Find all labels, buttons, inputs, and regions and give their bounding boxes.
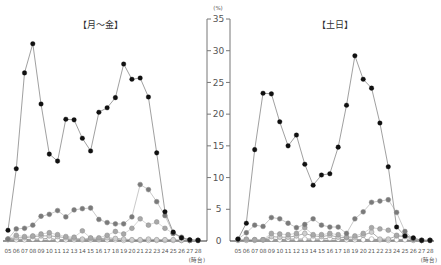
series-black-point — [319, 173, 324, 178]
series-black-point — [138, 76, 143, 81]
series-dark-gray-point — [294, 225, 299, 230]
x-tick-label: 10 — [46, 248, 54, 254]
series-dark-gray-point — [105, 220, 110, 225]
weekend-x-unit: (時台) — [421, 256, 437, 264]
series-mid-gray-point — [105, 233, 110, 238]
x-tick-label: 08 — [29, 248, 37, 254]
series-mid-gray-point — [394, 233, 399, 238]
series-light-gray-point — [163, 237, 168, 242]
series-black-point — [105, 106, 110, 111]
series-black-point — [30, 41, 35, 46]
x-tick-label: 07 — [21, 248, 29, 254]
series-black-point — [55, 159, 60, 164]
x-tick-label: 09 — [268, 248, 276, 254]
x-tick-label: 10 — [276, 248, 284, 254]
series-mid-gray-point — [277, 232, 282, 237]
x-tick-label: 25 — [170, 248, 178, 254]
series-mid-gray-point — [311, 232, 316, 237]
series-black-point — [6, 228, 11, 233]
weekend-panel: 【土日】 (時台) 050607080910111213141516171819… — [230, 19, 437, 264]
series-dark-gray-point — [39, 214, 44, 219]
series-black-line — [8, 44, 198, 241]
y-tick-label: 35 — [213, 14, 224, 24]
series-black-point — [154, 151, 159, 156]
x-tick-label: 14 — [79, 248, 87, 254]
series-white-point — [361, 237, 366, 242]
series-black-point — [236, 237, 241, 242]
series-light-gray-point — [154, 237, 159, 242]
series-mid-gray-point — [286, 232, 291, 237]
series-white-point — [369, 237, 374, 242]
x-tick-label: 13 — [71, 248, 79, 254]
series-light-gray-point — [130, 237, 135, 242]
series-mid-gray-point — [63, 234, 68, 239]
series-dark-gray-point — [121, 221, 126, 226]
x-tick-label: 05 — [234, 248, 242, 254]
series-black-point — [187, 237, 192, 242]
x-tick-label: 24 — [393, 248, 401, 254]
series-mid-gray-point — [154, 220, 159, 225]
series-black-point — [252, 147, 257, 152]
series-dark-gray-point — [327, 225, 332, 230]
x-tick-label: 19 — [351, 248, 359, 254]
y-tick-label: 10 — [213, 173, 225, 183]
series-dark-gray-point — [386, 197, 391, 202]
x-tick-label: 20 — [360, 248, 368, 254]
x-tick-label: 19 — [120, 248, 128, 254]
series-mid-gray-point — [80, 228, 85, 233]
series-mid-gray-point — [47, 230, 52, 235]
series-mid-gray-point — [39, 232, 44, 237]
series-black-point — [403, 234, 408, 239]
series-black-point — [361, 77, 366, 82]
x-tick-label: 15 — [87, 248, 95, 254]
series-mid-gray-point — [378, 227, 383, 232]
series-black-point — [328, 171, 333, 176]
series-light-gray-point — [80, 237, 85, 242]
x-tick-label: 27 — [418, 248, 426, 254]
series-black-point — [14, 166, 19, 171]
series-black-point — [261, 91, 266, 96]
series-light-gray-point — [146, 237, 151, 242]
series-mid-gray-point — [252, 237, 257, 242]
series-dark-gray-point — [352, 216, 357, 221]
series-mid-gray-point — [30, 234, 35, 239]
x-tick-label: 16 — [326, 248, 334, 254]
series-mid-gray-point — [327, 231, 332, 236]
series-black-point — [88, 149, 93, 154]
x-tick-label: 18 — [343, 248, 351, 254]
series-dark-gray-point — [252, 223, 257, 228]
series-mid-gray-point — [113, 229, 118, 234]
series-mid-gray-point — [96, 235, 101, 240]
series-mid-gray-point — [244, 237, 249, 242]
x-tick-label: 06 — [243, 248, 251, 254]
series-black-point — [269, 92, 274, 97]
series-light-gray-point — [138, 237, 143, 242]
series-black-point — [244, 221, 249, 226]
series-mid-gray-point — [319, 232, 324, 237]
series-mid-gray-point — [14, 233, 19, 238]
series-light-gray-point — [378, 237, 383, 242]
x-tick-label: 18 — [112, 248, 120, 254]
series-black-point — [302, 162, 307, 167]
series-black-point — [121, 62, 126, 67]
series-black-point — [130, 77, 135, 82]
series-light-gray-point — [386, 237, 391, 242]
series-dark-gray-point — [286, 221, 291, 226]
series-dark-gray-point — [30, 223, 35, 228]
x-tick-label: 11 — [54, 248, 62, 254]
series-mid-gray-point — [336, 232, 341, 237]
series-dark-gray-point — [154, 199, 159, 204]
x-tick-label: 28 — [194, 248, 202, 254]
x-tick-label: 21 — [137, 248, 145, 254]
series-mid-gray-point — [294, 231, 299, 236]
x-tick-label: 24 — [161, 248, 169, 254]
series-dark-gray-point — [47, 212, 52, 217]
series-black-point — [344, 103, 349, 108]
series-dark-gray-point — [369, 200, 374, 205]
series-black-point — [369, 86, 374, 91]
y-axis: 05101520253035 — [207, 14, 230, 246]
series-mid-gray-point — [72, 235, 77, 240]
series-black-point — [171, 230, 176, 235]
x-tick-label: 07 — [251, 248, 259, 254]
series-dark-gray-point — [302, 222, 307, 227]
